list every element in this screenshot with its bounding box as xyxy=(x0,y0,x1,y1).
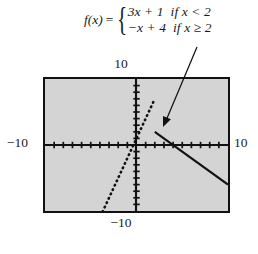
function-curves xyxy=(103,99,228,211)
case-expression: 3x + 1 xyxy=(128,4,164,19)
case-row: −x + 4 if x ≥ 2 xyxy=(128,20,212,35)
case-condition: if x ≥ 2 xyxy=(173,20,212,35)
graph-plot-area xyxy=(43,77,230,213)
graph-svg xyxy=(45,79,228,211)
function-name: f(x) xyxy=(84,12,105,27)
axis-label-right: 10 xyxy=(234,135,248,151)
axis-label-left: −10 xyxy=(7,135,28,151)
piecewise-formula: f(x) = { 3x + 1 if x < 2 −x + 4 if x ≥ 2 xyxy=(84,4,212,35)
case-expression: −x + 4 xyxy=(128,20,166,35)
case-row: 3x + 1 if x < 2 xyxy=(128,4,212,19)
cases-list: 3x + 1 if x < 2 −x + 4 if x ≥ 2 xyxy=(128,4,212,34)
equals-sign: = xyxy=(105,12,117,27)
axis-label-top: 10 xyxy=(106,56,136,72)
case-condition: if x < 2 xyxy=(171,4,211,19)
axis-label-bottom: −10 xyxy=(106,215,136,231)
function-branch xyxy=(155,132,228,185)
left-brace: { xyxy=(117,4,127,34)
function-branch xyxy=(103,99,155,211)
